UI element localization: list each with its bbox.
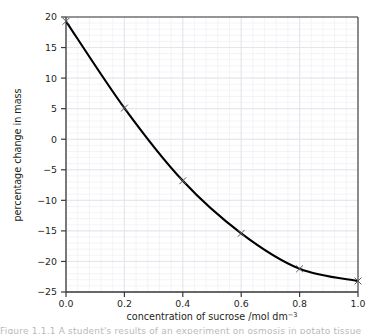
x-tick-label: 0.6 [234,298,249,309]
x-axis-title: concentration of sucrose /mol dm−3 [126,311,297,323]
plot-area-background [66,17,358,292]
y-tick-label: 5 [51,103,57,114]
y-tick-label: −20 [37,256,57,267]
y-tick-label: −25 [37,286,57,297]
x-tick-label: 0.4 [175,298,190,309]
y-tick-label: −10 [37,195,57,206]
x-tick-label: 0.8 [292,298,307,309]
y-tick-label: 10 [45,73,57,84]
y-tick-label: −5 [43,164,57,175]
osmosis-line-chart: 20151050−5−10−15−20−25 0.00.20.40.60.81.… [0,0,392,334]
y-tick-label: 0 [51,134,57,145]
figure-caption: Figure 1.1.1 A student's results of an e… [0,326,392,334]
x-tick-label: 0.2 [117,298,132,309]
x-tick-label: 1.0 [351,298,366,309]
y-axis-title: percentage change in mass [12,88,23,221]
figure-container: 20151050−5−10−15−20−25 0.00.20.40.60.81.… [0,0,392,334]
y-tick-label: −15 [37,225,57,236]
y-tick-label: 15 [45,42,57,53]
y-tick-label: 20 [45,11,57,22]
x-tick-label: 0.0 [59,298,74,309]
